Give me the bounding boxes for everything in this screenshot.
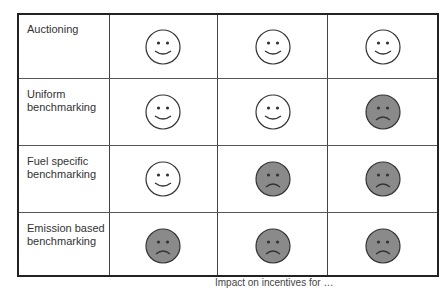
- row-divider: [19, 78, 437, 79]
- happy-face-icon: [255, 29, 291, 65]
- row-label-auctioning: Auctioning: [27, 23, 107, 36]
- row-label-uniform-benchmarking: Uniform benchmarking: [27, 88, 107, 114]
- sad-face-icon: [255, 228, 291, 264]
- happy-face-icon: [145, 94, 181, 130]
- axis-caption: Impact on incentives for …: [215, 277, 333, 288]
- happy-face-icon: [365, 29, 401, 65]
- sad-face-icon: [145, 228, 181, 264]
- happy-face-icon: [255, 94, 291, 130]
- sad-face-icon: [365, 94, 401, 130]
- row-divider: [19, 145, 437, 146]
- happy-face-icon: [145, 29, 181, 65]
- sad-face-icon: [365, 228, 401, 264]
- row-divider: [19, 212, 437, 213]
- sad-face-icon: [365, 161, 401, 197]
- row-label-emission-based-benchmarking: Emission based benchmarking: [27, 222, 111, 248]
- row-label-fuel-specific-benchmarking: Fuel specific benchmarking: [27, 155, 107, 181]
- happy-face-icon: [145, 161, 181, 197]
- sad-face-icon: [255, 161, 291, 197]
